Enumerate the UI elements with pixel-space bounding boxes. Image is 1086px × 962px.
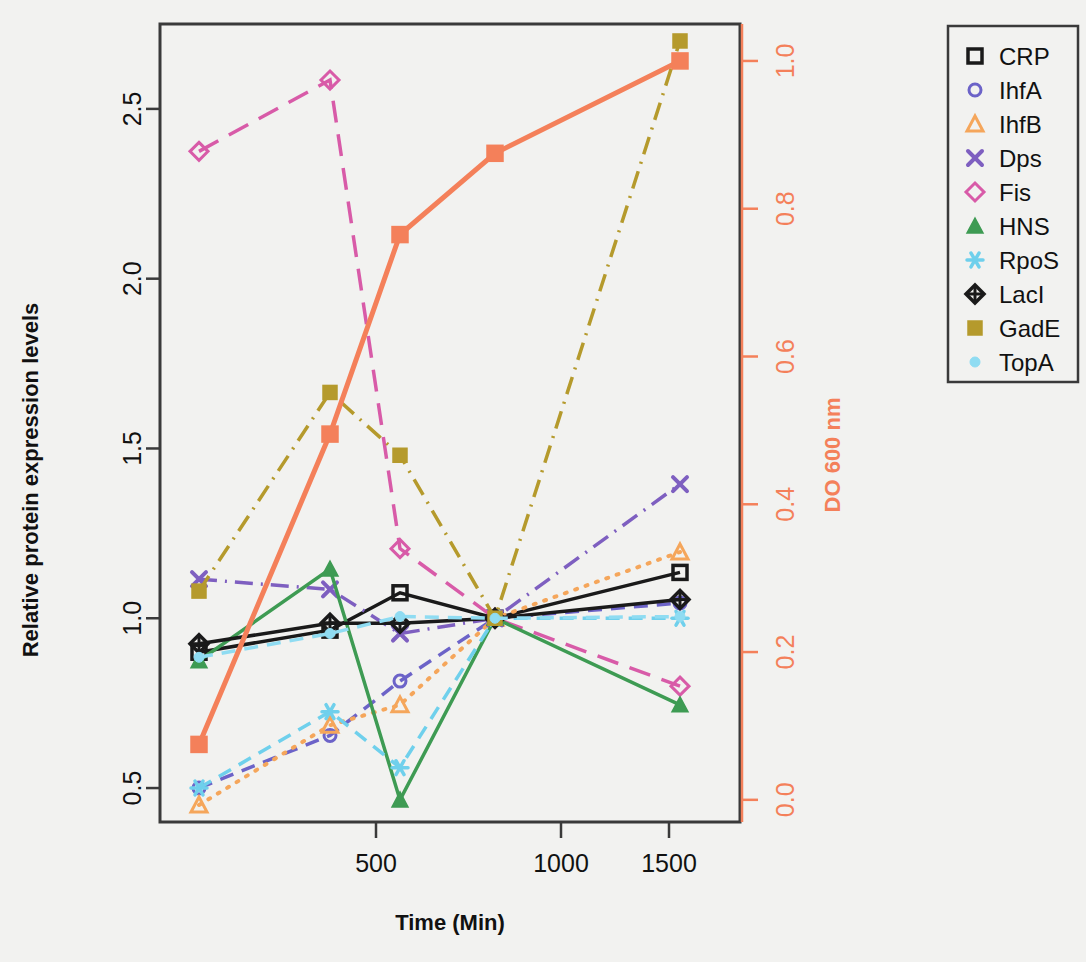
data-point-marker <box>395 612 405 622</box>
y2-tick-label: 0.2 <box>771 635 799 670</box>
y2-tick-label: 1.0 <box>771 44 799 79</box>
legend-label: RpoS <box>999 247 1059 274</box>
data-point-marker <box>194 652 204 662</box>
chart-canvas: 0.51.01.52.02.5 0.00.20.40.60.81.0 50010… <box>0 0 1086 962</box>
multi-series-line-chart: 0.51.01.52.02.5 0.00.20.40.60.81.0 50010… <box>0 0 1086 962</box>
y2-tick-label: 0.0 <box>771 782 799 817</box>
data-point-marker <box>393 448 407 462</box>
y-tick-label: 0.5 <box>118 771 146 806</box>
legend-label: Dps <box>999 145 1042 172</box>
data-point-marker <box>322 426 338 442</box>
legend-label: LacI <box>999 281 1044 308</box>
data-point-marker <box>323 385 337 399</box>
data-point-marker <box>192 584 206 598</box>
data-point-marker <box>392 227 408 243</box>
legend-label: TopA <box>999 349 1054 376</box>
legend-label: IhfB <box>999 111 1042 138</box>
y-tick-label: 2.0 <box>118 261 146 296</box>
x-tick-label: 1000 <box>533 849 589 877</box>
data-point-marker <box>191 736 207 752</box>
y2-tick-label: 0.4 <box>771 487 799 522</box>
data-point-marker <box>490 613 500 623</box>
legend-label: GadE <box>999 315 1060 342</box>
data-point-marker <box>487 145 503 161</box>
legend-label: Fis <box>999 179 1031 206</box>
legend-marker-GadE <box>968 321 982 335</box>
chart-background <box>0 0 1086 962</box>
data-point-marker <box>970 357 980 367</box>
x-axis-title: Time (Min) <box>395 910 505 935</box>
y2-axis-title: DO 600 nm <box>820 398 845 513</box>
data-point-marker <box>672 53 688 69</box>
y-tick-label: 1.5 <box>118 431 146 466</box>
y-tick-label: 2.5 <box>118 92 146 127</box>
legend-label: IhfA <box>999 77 1042 104</box>
y-axis-title: Relative protein expression levels <box>18 303 43 658</box>
y-tick-label: 1.0 <box>118 601 146 636</box>
data-point-marker <box>325 629 335 639</box>
y2-tick-label: 0.8 <box>771 191 799 226</box>
x-tick-label: 1500 <box>641 849 697 877</box>
legend-marker-TopA <box>970 357 980 367</box>
data-point-marker <box>673 34 687 48</box>
legend-label: CRP <box>999 43 1050 70</box>
data-point-marker <box>968 321 982 335</box>
legend-label: HNS <box>999 213 1050 240</box>
x-tick-label: 500 <box>355 849 397 877</box>
data-point-marker <box>675 612 685 622</box>
y2-tick-label: 0.6 <box>771 339 799 374</box>
